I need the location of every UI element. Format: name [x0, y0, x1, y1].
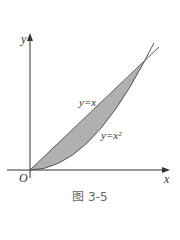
line-label: y=x: [79, 96, 96, 108]
parabola-label: y=x²: [101, 129, 122, 141]
y-axis-label: y: [21, 32, 26, 47]
origin-label: O: [19, 171, 28, 186]
x-axis-label: x: [164, 172, 169, 187]
figure-caption: 图 3-5: [0, 187, 180, 204]
y-axis-arrow-icon: [27, 33, 33, 41]
line-y-equals-x: [30, 47, 159, 170]
